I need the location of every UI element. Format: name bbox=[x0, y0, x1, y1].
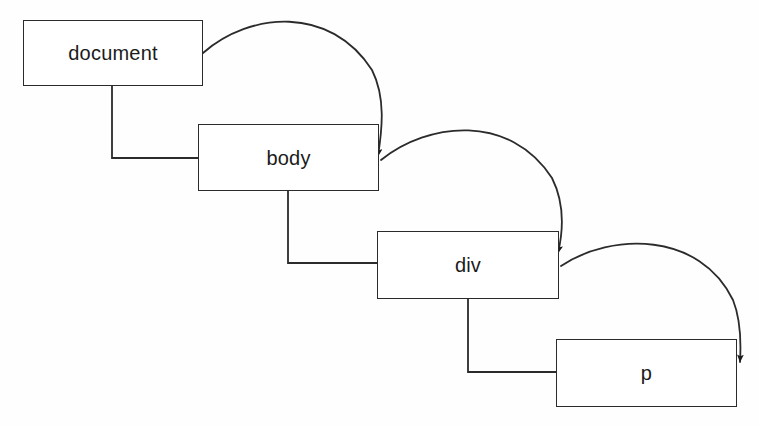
node-p-label: p bbox=[641, 363, 652, 383]
node-body-label: body bbox=[266, 148, 310, 168]
diagram-canvas: document body div p bbox=[0, 0, 759, 425]
node-document-label: document bbox=[68, 43, 157, 63]
node-document[interactable]: document bbox=[23, 20, 203, 86]
connector-document-to-body-elbow bbox=[112, 86, 198, 158]
node-body[interactable]: body bbox=[198, 124, 379, 191]
connector-div-to-p-elbow bbox=[468, 299, 556, 372]
node-div-label: div bbox=[455, 255, 481, 275]
connector-body-to-div-elbow bbox=[288, 191, 377, 263]
node-p[interactable]: p bbox=[556, 339, 737, 407]
node-div[interactable]: div bbox=[377, 231, 559, 299]
